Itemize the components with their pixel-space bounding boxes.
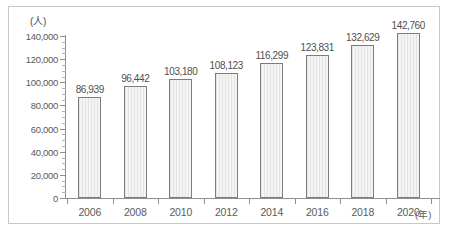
y-axis-minor-tick bbox=[62, 158, 66, 159]
y-axis-tick-labels: 020,00040,00060,00080,000100,000120,0001… bbox=[8, 0, 58, 239]
bar[interactable] bbox=[260, 63, 283, 198]
bar-value-label: 108,123 bbox=[210, 60, 243, 71]
y-axis-minor-tick bbox=[62, 53, 66, 54]
y-axis-major-tick bbox=[60, 59, 66, 60]
bar-value-label: 132,629 bbox=[346, 32, 379, 43]
x-axis-category-label: 2010 bbox=[169, 206, 192, 218]
y-axis-minor-tick bbox=[62, 65, 66, 66]
bar-value-label: 142,760 bbox=[392, 20, 425, 31]
y-axis-tick-label: 20,000 bbox=[10, 169, 58, 180]
y-axis-tick-label: 100,000 bbox=[10, 77, 58, 88]
y-axis-tick-label: 60,000 bbox=[10, 123, 58, 134]
y-axis-minor-tick bbox=[62, 186, 66, 187]
x-axis-category-label: 2012 bbox=[215, 206, 238, 218]
y-axis-minor-tick bbox=[62, 123, 66, 124]
y-axis-major-tick bbox=[60, 152, 66, 153]
y-axis-minor-tick bbox=[62, 100, 66, 101]
y-axis-tick-label: 80,000 bbox=[10, 100, 58, 111]
y-axis-minor-tick bbox=[62, 192, 66, 193]
bar-value-label: 123,831 bbox=[301, 42, 334, 53]
y-axis-major-tick bbox=[60, 198, 66, 199]
x-axis-tick bbox=[431, 199, 432, 204]
y-axis-minor-tick bbox=[62, 42, 66, 43]
y-axis-minor-tick bbox=[62, 169, 66, 170]
y-axis-minor-tick bbox=[62, 48, 66, 49]
x-axis-tick bbox=[67, 199, 68, 204]
x-axis-tick bbox=[158, 199, 159, 204]
y-axis-major-tick bbox=[60, 82, 66, 83]
bar[interactable] bbox=[306, 55, 329, 198]
x-axis-tick bbox=[340, 199, 341, 204]
bar-chart: (人) 020,00040,00060,00080,000100,000120,… bbox=[0, 0, 455, 239]
y-axis-minor-tick bbox=[62, 181, 66, 182]
y-axis-major-tick bbox=[60, 36, 66, 37]
x-axis-category-label: 2014 bbox=[260, 206, 283, 218]
y-axis-minor-tick bbox=[62, 134, 66, 135]
bar-value-label: 96,442 bbox=[121, 73, 149, 84]
bar[interactable] bbox=[351, 45, 374, 198]
y-axis-tick-label: 120,000 bbox=[10, 54, 58, 65]
y-axis-major-tick bbox=[60, 129, 66, 130]
x-axis-tick bbox=[249, 199, 250, 204]
y-axis-minor-tick bbox=[62, 117, 66, 118]
y-axis-minor-tick bbox=[62, 163, 66, 164]
y-axis-minor-tick bbox=[62, 77, 66, 78]
bar[interactable] bbox=[78, 97, 101, 198]
x-axis-tick bbox=[113, 199, 114, 204]
y-axis-minor-tick bbox=[62, 140, 66, 141]
y-axis-minor-tick bbox=[62, 94, 66, 95]
x-axis-category-label: 2006 bbox=[78, 206, 101, 218]
y-axis-minor-tick bbox=[62, 146, 66, 147]
bar[interactable] bbox=[397, 33, 420, 198]
bar-value-label: 103,180 bbox=[164, 66, 197, 77]
y-axis-major-tick bbox=[60, 175, 66, 176]
x-axis-tick bbox=[295, 199, 296, 204]
x-axis-line bbox=[65, 198, 440, 199]
x-axis-category-label: 2016 bbox=[306, 206, 329, 218]
y-axis-minor-tick bbox=[62, 71, 66, 72]
y-axis-tick-label: 40,000 bbox=[10, 146, 58, 157]
y-axis-tick-label: 140,000 bbox=[10, 31, 58, 42]
bar-value-label: 116,299 bbox=[255, 50, 288, 61]
x-axis-category-label: 2008 bbox=[124, 206, 147, 218]
x-axis-tick bbox=[386, 199, 387, 204]
x-axis-tick bbox=[204, 199, 205, 204]
x-axis-unit-label: (年) bbox=[415, 207, 431, 221]
x-axis-category-label: 2018 bbox=[351, 206, 374, 218]
bar[interactable] bbox=[215, 73, 238, 198]
y-axis-minor-tick bbox=[62, 111, 66, 112]
y-axis-minor-tick bbox=[62, 88, 66, 89]
y-axis-major-tick bbox=[60, 105, 66, 106]
bar[interactable] bbox=[169, 79, 192, 198]
y-axis-tick-label: 0 bbox=[10, 193, 58, 204]
bar[interactable] bbox=[124, 86, 147, 198]
bar-value-label: 86,939 bbox=[76, 84, 104, 95]
